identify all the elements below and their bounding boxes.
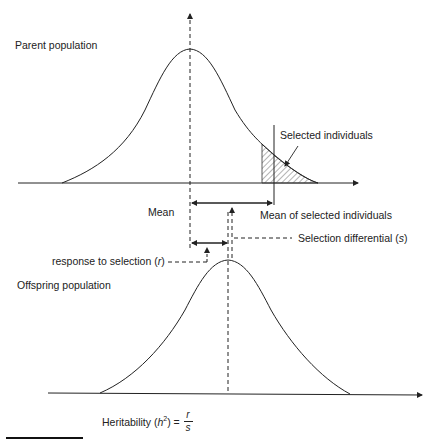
selection-differential-label: Selection differential (s): [298, 233, 408, 244]
heritability-diagram: [0, 0, 433, 442]
heritability-formula: Heritability (h2) =: [102, 415, 180, 427]
mean-label: Mean: [148, 207, 174, 218]
mean-of-selected-label: Mean of selected individuals: [260, 210, 392, 221]
fraction-denominator: s: [183, 423, 193, 433]
offspring-x-axis: [48, 393, 422, 395]
offspring-population-label: Offspring population: [17, 280, 111, 291]
selected-individuals-pointer: [285, 146, 298, 166]
parent-population-label: Parent population: [15, 40, 97, 51]
fraction-numerator: r: [183, 410, 193, 420]
offspring-distribution-curve: [100, 260, 350, 394]
selected-individuals-region: [262, 144, 318, 183]
selected-individuals-label: Selected individuals: [280, 130, 373, 141]
response-to-selection-label: response to selection (r): [52, 256, 165, 267]
